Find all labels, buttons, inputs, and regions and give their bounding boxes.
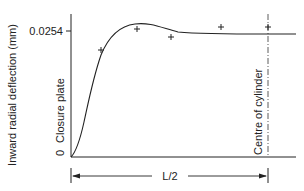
y-tick-label-top: 0.0254 [29,25,63,37]
arrow-left-icon [72,174,80,179]
y-tick-label-zero: 0 [54,150,66,156]
deflection-chart: 0.0254 Inward radial deflection (mm) 0 C… [0,0,304,191]
y-axis-title: Inward radial deflection (mm) [6,24,18,166]
measured-points [98,24,271,53]
centre-of-cylinder-label: Centre of cylinder [252,68,264,155]
arrow-right-icon [259,174,267,179]
data-point-3 [168,34,174,40]
closure-plate-label: Closure plate [54,78,66,143]
data-point-5 [265,24,271,30]
data-point-4 [218,24,224,30]
dimension-label: L/2 [162,170,177,182]
data-point-1 [98,47,104,53]
data-point-2 [134,26,140,32]
